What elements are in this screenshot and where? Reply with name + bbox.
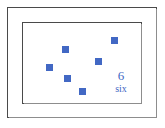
marker-1: [62, 46, 69, 53]
marker-4: [46, 64, 53, 71]
marker-6: [79, 88, 86, 95]
marker-5: [64, 75, 71, 82]
count-word-label: six: [108, 84, 134, 94]
marker-3: [95, 58, 102, 65]
count-numeral-label: 6: [108, 69, 134, 82]
counting-card: 6 six: [0, 0, 165, 128]
marker-2: [111, 37, 118, 44]
